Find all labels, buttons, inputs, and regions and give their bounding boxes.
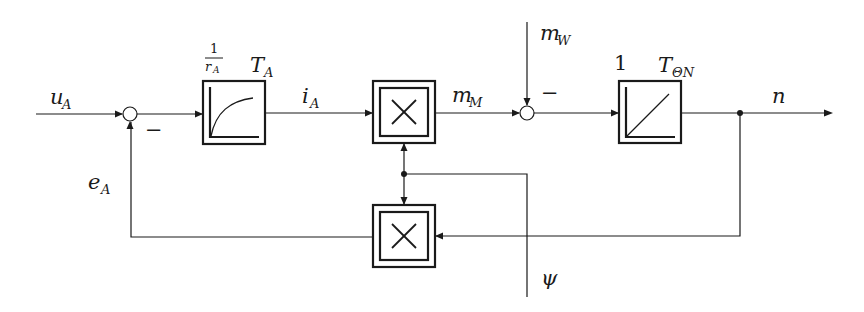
- label-m-m-sub: M: [468, 95, 483, 110]
- label-i: i: [302, 84, 309, 108]
- arrow-head-icon: [611, 110, 619, 117]
- arrow-head-icon: [401, 197, 408, 205]
- label-u-sub: A: [61, 97, 71, 112]
- block-armature-pt1: 1 r A T A: [203, 41, 273, 144]
- arrow-head-icon: [824, 110, 833, 117]
- output-signal-n: n: [681, 84, 833, 117]
- arrow-head-icon: [365, 110, 373, 117]
- input-signal-u-a: u A: [36, 85, 123, 118]
- arrow-head-icon: [435, 233, 443, 240]
- arrow-head-icon: [524, 98, 531, 106]
- block-multiplier-torque: [373, 81, 435, 143]
- feedback-speed-path: [435, 113, 740, 240]
- label-i-sub: A: [309, 96, 319, 111]
- gain-numerator: 1: [210, 41, 218, 56]
- label-n: n: [772, 84, 786, 108]
- minus-sign: −: [145, 118, 163, 142]
- gain-denominator-sub: A: [212, 65, 220, 75]
- block-integrator: 1 T ΘN: [614, 51, 695, 143]
- label-psi: ψ: [541, 266, 558, 290]
- label-e-sub: A: [100, 182, 110, 197]
- arrow-head-icon: [115, 111, 123, 118]
- arrow-head-icon: [512, 110, 520, 117]
- block-multiplier-emf: [373, 205, 435, 267]
- label-e: e: [88, 170, 100, 194]
- time-constant-t-theta-n-sub: ΘN: [672, 65, 695, 80]
- integrator-gain: 1: [614, 51, 627, 75]
- time-constant-t-a-sub: A: [263, 65, 273, 80]
- arrow-head-icon: [195, 111, 203, 118]
- gain-denominator: r: [205, 59, 212, 74]
- label-m-w-sub: W: [557, 33, 572, 48]
- arrow-head-icon: [401, 143, 408, 151]
- minus-sign: −: [541, 81, 559, 105]
- arrow-head-icon: [127, 121, 134, 129]
- block-diagram: u A − 1 r A T A i A m M m: [0, 0, 864, 312]
